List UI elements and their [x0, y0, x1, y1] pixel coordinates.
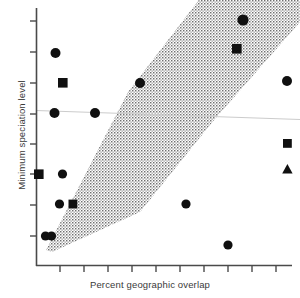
data-point-triangle — [282, 164, 292, 174]
scatter-plot-figure: Minimum speciation level Percent geograp… — [0, 0, 300, 298]
data-point-circle — [51, 48, 61, 58]
data-point-square — [283, 139, 292, 148]
y-axis-label-wrapper: Minimum speciation level — [14, 0, 28, 270]
plot-canvas — [0, 0, 300, 298]
data-point-square — [232, 44, 242, 54]
data-point-circle — [47, 231, 56, 240]
x-axis-ticks — [60, 266, 276, 272]
data-point-circle — [237, 14, 248, 25]
data-point-square — [69, 200, 78, 209]
data-point-square — [34, 169, 44, 179]
y-axis-label: Minimum speciation level — [16, 80, 27, 190]
data-point-circle — [55, 199, 64, 208]
data-point-circle — [282, 76, 292, 86]
data-point-circle — [58, 169, 67, 178]
y-axis-ticks — [30, 21, 36, 236]
data-point-circle — [223, 240, 232, 249]
shaded-confidence-band — [46, 0, 300, 252]
data-point-circle — [135, 78, 145, 88]
data-point-circle — [181, 199, 190, 208]
data-point-circle — [90, 108, 100, 118]
data-point-circle — [50, 108, 60, 118]
x-axis-label: Percent geographic overlap — [0, 279, 300, 290]
data-point-square — [58, 78, 68, 88]
